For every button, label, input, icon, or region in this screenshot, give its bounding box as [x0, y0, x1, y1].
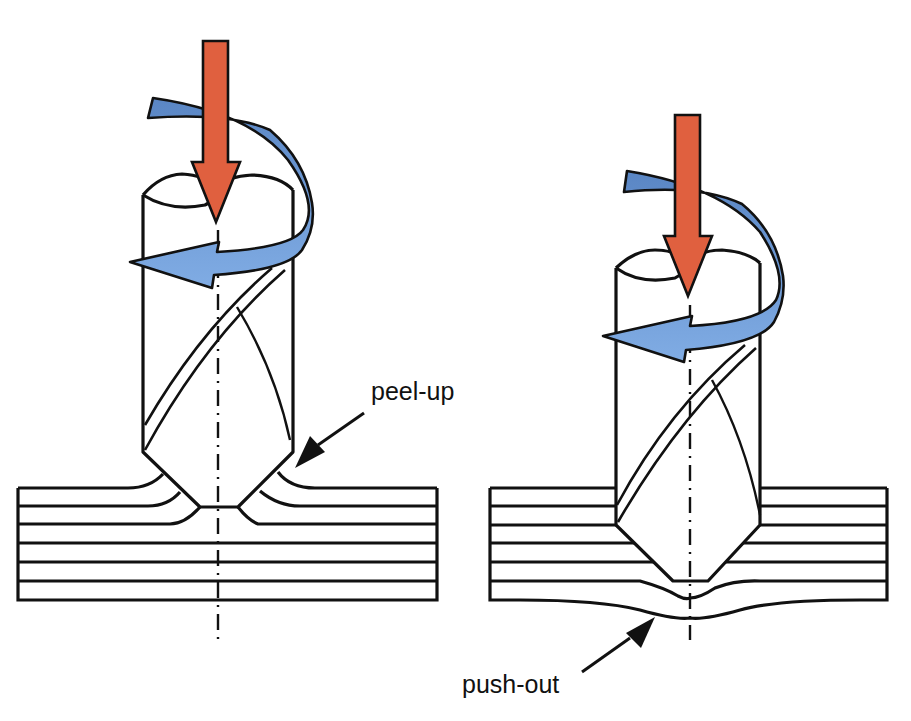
peel-up-label: peel-up: [371, 379, 454, 404]
peel-up-panel: [18, 41, 437, 640]
push-out-panel: [490, 115, 887, 672]
peel-up-pointer-arrow: [295, 413, 364, 468]
push-out-label: push-out: [462, 672, 559, 697]
push-out-pointer-arrow: [582, 617, 655, 672]
drilling-delamination-diagram: [0, 0, 911, 721]
drill-bit-right: [616, 250, 760, 581]
